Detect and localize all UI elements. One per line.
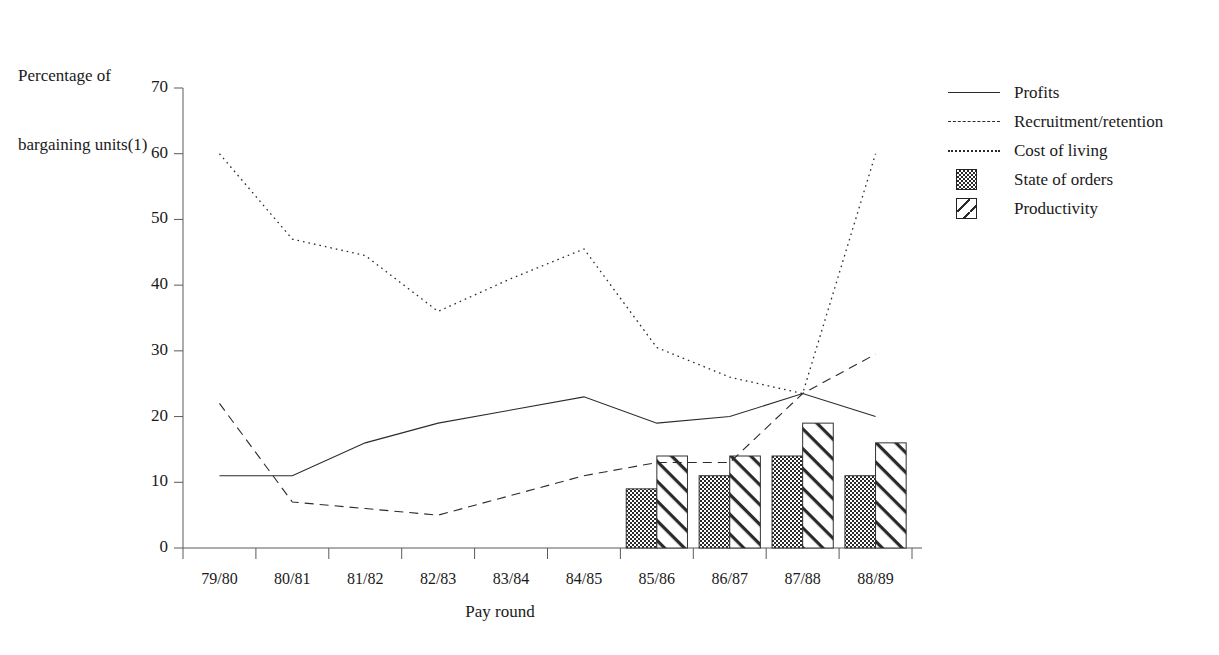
y-tick-label: 40 [108, 274, 168, 294]
y-tick-label: 0 [108, 537, 168, 557]
checker-swatch-icon [948, 169, 1000, 191]
legend-item-productivity[interactable]: Productivity [948, 194, 1210, 223]
legend-label: Profits [1014, 83, 1059, 103]
dotted-line-sample [948, 150, 1000, 152]
y-tick-label: 10 [108, 471, 168, 491]
chart-legend: ProfitsRecruitment/retentionCost of livi… [948, 78, 1210, 223]
legend-label: Recruitment/retention [1014, 112, 1163, 132]
hatch-swatch-icon [948, 198, 1000, 220]
hatch-swatch-sample [956, 198, 977, 219]
solid-line-key-icon [948, 82, 1000, 104]
bar-productivity-85/86 [657, 456, 688, 548]
x-axis-label: Pay round [0, 600, 1000, 623]
legend-item-state-of-orders[interactable]: State of orders [948, 165, 1210, 194]
bar-productivity-87/88 [803, 423, 834, 548]
y-tick-label: 60 [108, 143, 168, 163]
bar-state-of-orders-87/88 [772, 456, 803, 548]
legend-item-recruitment-retention[interactable]: Recruitment/retention [948, 107, 1210, 136]
dashed-line-sample [948, 121, 1000, 122]
legend-label: State of orders [1014, 170, 1113, 190]
bar-productivity-86/87 [730, 456, 761, 548]
y-tick-label: 70 [108, 77, 168, 97]
dotted-line-key-icon [948, 140, 1000, 162]
dashed-line-key-icon [948, 111, 1000, 133]
chart-container: Percentage of bargaining units(1) 010203… [0, 0, 1219, 655]
legend-item-profits[interactable]: Profits [948, 78, 1210, 107]
solid-line-sample [948, 92, 1000, 93]
bar-series-group [626, 423, 906, 548]
bar-productivity-88/89 [876, 443, 907, 548]
bar-state-of-orders-86/87 [699, 476, 730, 548]
bar-state-of-orders-85/86 [626, 489, 657, 548]
legend-label: Productivity [1014, 199, 1098, 219]
y-tick-label: 20 [108, 406, 168, 426]
x-tick-label: 88/89 [826, 570, 926, 588]
legend-label: Cost of living [1014, 141, 1108, 161]
legend-item-cost-of-living[interactable]: Cost of living [948, 136, 1210, 165]
line-cost-of-living [219, 154, 875, 394]
y-tick-label: 30 [108, 340, 168, 360]
y-tick-label: 50 [108, 208, 168, 228]
bar-state-of-orders-88/89 [845, 476, 876, 548]
checker-swatch-sample [956, 169, 977, 190]
